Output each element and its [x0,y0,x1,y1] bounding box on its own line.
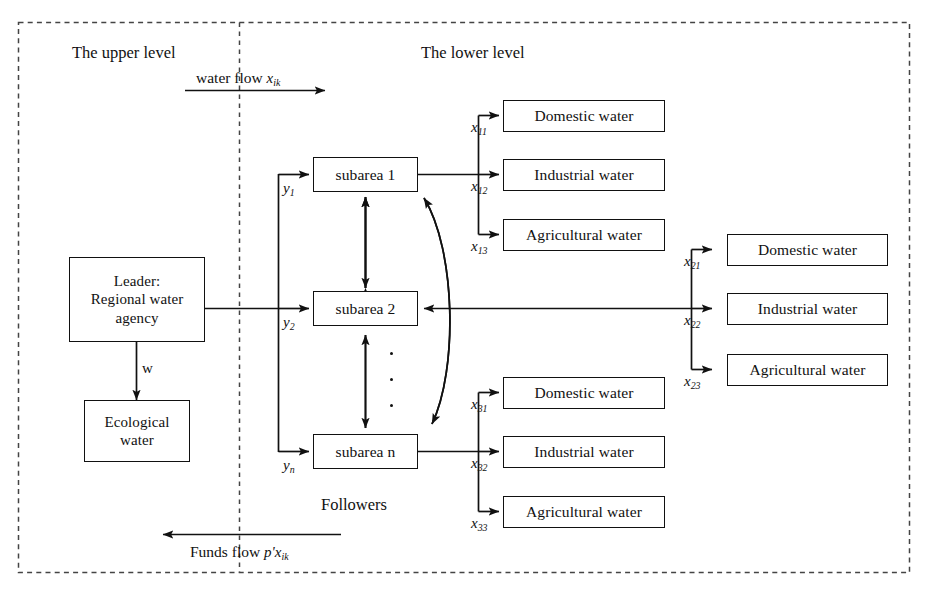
x33-label: x33 [471,515,488,532]
leader-line-1: Leader: [114,272,161,290]
x21-label: x21 [684,253,701,270]
funds-flow-text: Funds flow [190,543,260,560]
cluster2-agricultural-water-box[interactable]: Agricultural water [727,354,888,386]
x13-label: x13 [471,238,488,255]
x31-sub: 31 [478,403,488,414]
y1-sub: 1 [290,187,295,198]
yn-label: yn [283,457,295,474]
funds-flow-label: Funds flow p'xik [190,543,289,561]
water-flow-label: water flow xik [196,69,280,87]
x21-var: x [684,253,691,269]
cluster2-industrial-water-box[interactable]: Industrial water [727,293,888,325]
x31-var: x [471,396,478,412]
subarea-1-box[interactable]: subarea 1 [313,157,418,192]
x32-label: x32 [471,455,488,472]
subarea1-subarean-curve-up [424,198,450,424]
x11-label: x11 [471,119,487,136]
x23-sub: 23 [691,380,701,391]
y2-var: y [283,314,290,330]
x22-label: x22 [684,312,701,329]
yn-var: y [283,457,290,473]
cluster1-industrial-water-box[interactable]: Industrial water [503,159,665,191]
followers-label: Followers [321,495,387,515]
ecological-edge-label: w [142,360,153,377]
x23-var: x [684,373,691,389]
x12-sub: 12 [478,185,488,196]
ecological-line-1: Ecological [104,413,169,431]
water-flow-text: water flow [196,69,263,86]
y2-sub: 2 [290,321,295,332]
x13-var: x [471,238,478,254]
cluster2-domestic-water-box[interactable]: Domestic water [727,234,888,266]
x23-label: x23 [684,373,701,390]
x11-sub: 11 [478,126,487,137]
yn-sub: n [290,464,295,475]
x12-var: x [471,178,478,194]
cluster1-agricultural-water-box[interactable]: Agricultural water [503,219,665,251]
ecological-water-box[interactable]: Ecological water [84,400,190,462]
figure-canvas: The upper level The lower level Follower… [0,0,928,593]
upper-level-label: The upper level [72,43,176,63]
cluster1-domestic-water-box[interactable]: Domestic water [503,100,665,132]
x13-sub: 13 [478,245,488,256]
x21-sub: 21 [691,260,701,271]
x33-sub: 33 [478,522,488,533]
clustern-agricultural-water-box[interactable]: Agricultural water [503,496,665,528]
x32-var: x [471,455,478,471]
y2-label: y2 [283,314,295,331]
leader-line-3: agency [115,309,158,327]
x11-var: x [471,119,478,135]
y1-label: y1 [283,180,295,197]
clustern-domestic-water-box[interactable]: Domestic water [503,377,665,409]
x22-var: x [684,312,691,328]
subarea1-subarean-curve-down [424,198,450,424]
x33-var: x [471,515,478,531]
y1-var: y [283,180,290,196]
ellipsis-dot-2 [390,378,393,381]
clustern-industrial-water-box[interactable]: Industrial water [503,436,665,468]
lower-level-label: The lower level [421,43,525,63]
x22-sub: 22 [691,319,701,330]
x31-label: x31 [471,396,488,413]
leader-line-2: Regional water [91,290,184,308]
x32-sub: 32 [478,462,488,473]
ellipsis-dot-3 [390,404,393,407]
subarea-2-box[interactable]: subarea 2 [313,291,418,326]
funds-flow-var: p'x [264,544,281,560]
leader-box[interactable]: Leader: Regional water agency [69,257,205,342]
subarea-n-box[interactable]: subarea n [313,434,418,469]
funds-flow-sub: ik [281,551,288,562]
ecological-line-2: water [120,431,154,449]
water-flow-sub: ik [273,77,280,88]
x12-label: x12 [471,178,488,195]
ellipsis-dot-1 [390,352,393,355]
